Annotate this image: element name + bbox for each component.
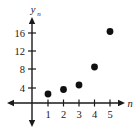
- y-axis-label-subscript: n: [37, 10, 41, 18]
- x-axis-right-arrow-icon: [118, 100, 125, 106]
- y-axis-top-arrow-icon: [29, 17, 35, 24]
- data-point: [45, 91, 52, 98]
- y-tick-label-4: 4: [20, 83, 26, 94]
- x-tick-label-2: 2: [61, 109, 66, 120]
- y-tick-labels-group: 4 8 12 16: [15, 28, 26, 94]
- y-tick-label-16: 16: [15, 28, 26, 39]
- y-tick-label-12: 12: [15, 46, 26, 57]
- plot-canvas: 4 8 12 16 1 2 3 4 5 y n n: [0, 0, 135, 130]
- x-axis-left-arrow-icon: [7, 100, 14, 106]
- x-tick-labels-group: 1 2 3 4 5: [45, 109, 112, 120]
- x-axis-label: n: [127, 98, 132, 109]
- y-tick-label-8: 8: [20, 64, 25, 75]
- x-tick-label-3: 3: [76, 109, 81, 120]
- x-tick-label-4: 4: [92, 109, 98, 120]
- scatter-plot-figure: 4 8 12 16 1 2 3 4 5 y n n: [0, 0, 135, 130]
- y-axis-label: y: [30, 4, 36, 15]
- data-point: [60, 86, 67, 93]
- data-point: [76, 82, 83, 89]
- data-point: [91, 64, 98, 71]
- y-axis-bottom-arrow-icon: [29, 120, 35, 127]
- x-tick-label-5: 5: [107, 109, 112, 120]
- x-tick-label-1: 1: [45, 109, 50, 120]
- data-points-group: [45, 28, 114, 97]
- data-point: [107, 28, 114, 35]
